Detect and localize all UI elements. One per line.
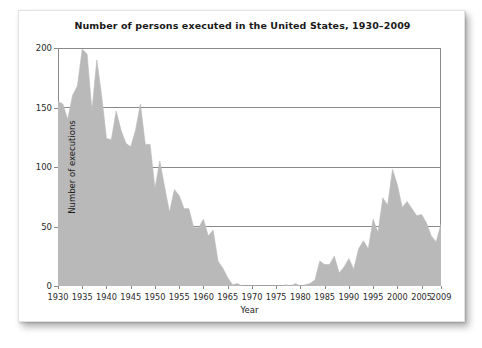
y-tick-mark <box>54 48 58 49</box>
x-tick-label: 1980 <box>290 292 311 302</box>
x-tick-mark <box>325 286 326 289</box>
x-tick-mark <box>203 286 204 289</box>
area-path <box>58 49 441 286</box>
x-tick-mark <box>252 286 253 289</box>
x-tick-mark <box>349 286 350 289</box>
x-tick-mark <box>106 286 107 289</box>
y-tick-mark <box>54 227 58 228</box>
screenshot-root: Number of persons executed in the United… <box>0 0 482 348</box>
x-tick-label: 1995 <box>363 292 384 302</box>
chart-card: Number of persons executed in the United… <box>18 10 465 322</box>
x-tick-label: 1935 <box>72 292 93 302</box>
x-tick-mark <box>131 286 132 289</box>
x-axis-title: Year <box>58 305 441 315</box>
executions-area-chart <box>58 48 441 286</box>
x-tick-mark <box>300 286 301 289</box>
area-series <box>58 49 441 286</box>
x-tick-label: 2005 <box>411 292 432 302</box>
x-tick-label: 1950 <box>145 292 166 302</box>
x-tick-label: 1940 <box>96 292 117 302</box>
y-tick-mark <box>54 167 58 168</box>
y-axis-title: Number of executions <box>67 120 77 214</box>
x-tick-mark <box>397 286 398 289</box>
x-tick-label: 1965 <box>217 292 238 302</box>
x-tick-mark <box>82 286 83 289</box>
x-tick-mark <box>155 286 156 289</box>
x-tick-label: 1930 <box>48 292 69 302</box>
x-tick-mark <box>373 286 374 289</box>
x-tick-mark <box>179 286 180 289</box>
y-tick-label: 0 <box>47 281 52 291</box>
y-tick-label: 100 <box>36 162 52 172</box>
x-tick-label: 1970 <box>242 292 263 302</box>
plot-area: 050100150200 193019351940194519501955196… <box>58 48 441 286</box>
x-tick-mark <box>58 286 59 289</box>
y-tick-label: 150 <box>36 103 52 113</box>
y-tick-label: 200 <box>36 43 52 53</box>
x-tick-mark <box>441 286 442 289</box>
x-tick-label: 1985 <box>314 292 335 302</box>
x-tick-label: 2000 <box>387 292 408 302</box>
chart-title: Number of persons executed in the United… <box>19 20 466 31</box>
y-tick-mark <box>54 108 58 109</box>
x-tick-mark <box>422 286 423 289</box>
x-tick-label: 1955 <box>169 292 190 302</box>
x-tick-mark <box>276 286 277 289</box>
x-tick-mark <box>228 286 229 289</box>
x-tick-label: 1945 <box>120 292 141 302</box>
y-tick-label: 50 <box>41 222 52 232</box>
x-tick-label: 1960 <box>193 292 214 302</box>
x-tick-label: 2009 <box>431 292 452 302</box>
x-tick-label: 1990 <box>338 292 359 302</box>
x-tick-label: 1975 <box>266 292 287 302</box>
